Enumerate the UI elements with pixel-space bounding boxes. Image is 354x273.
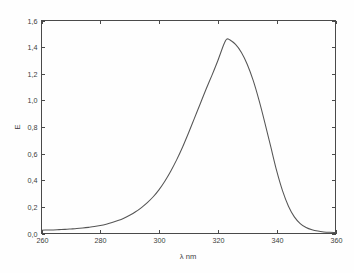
- y-axis-ticks: [42, 22, 336, 235]
- x-tick-label: 360: [331, 236, 343, 245]
- y-tick-label: 0,8: [28, 123, 38, 132]
- x-tick-label: 340: [272, 236, 284, 245]
- x-tick-label: 280: [95, 236, 107, 245]
- absorption-curve: [42, 39, 336, 233]
- y-tick-label: 1,2: [28, 70, 38, 79]
- y-tick-label: 1,0: [28, 96, 38, 105]
- y-axis-tick-labels: 0,00,20,40,60,81,01,21,41,6: [28, 17, 38, 239]
- x-axis-title: λ nm: [180, 252, 196, 261]
- y-tick-label: 0,2: [28, 203, 38, 212]
- y-tick-label: 1,6: [28, 17, 38, 26]
- x-axis-ticks: [43, 21, 337, 234]
- x-axis-tick-labels: 260280300320340360: [37, 236, 343, 245]
- y-tick-label: 1,4: [28, 43, 38, 52]
- y-tick-label: 0,4: [28, 176, 38, 185]
- y-tick-label: 0,6: [28, 150, 38, 159]
- y-tick-label: 0,0: [28, 230, 38, 239]
- chart-canvas: 260280300320340360 0,00,20,40,60,81,01,2…: [0, 0, 354, 273]
- x-tick-label: 300: [154, 236, 166, 245]
- x-tick-label: 260: [37, 236, 49, 245]
- x-tick-label: 320: [213, 236, 225, 245]
- plot-frame: [42, 21, 336, 234]
- chart-figure: 260280300320340360 0,00,20,40,60,81,01,2…: [0, 0, 354, 273]
- y-axis-title: E: [13, 124, 22, 129]
